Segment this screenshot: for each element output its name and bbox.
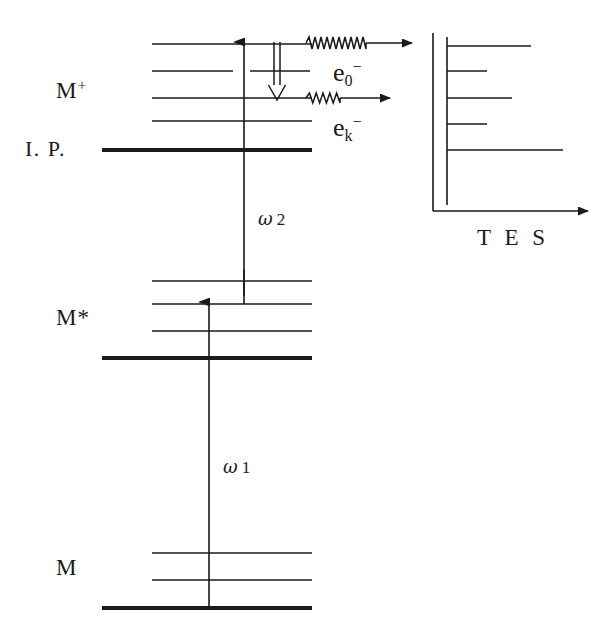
excited-manifold-levels [102, 281, 312, 358]
label-ionization-potential: I. P. [25, 136, 66, 162]
label-electron-k: ek− [333, 113, 362, 145]
tes-spectrum-panel [433, 33, 588, 211]
label-ground-state: M [56, 555, 77, 581]
electron-zero-subscript: 0 [345, 72, 353, 89]
electron-zero-symbol: e [333, 58, 345, 87]
omega1-symbol: ω [223, 456, 238, 477]
electron-k-subscript: k [345, 127, 353, 144]
label-tes-axis: T E S [477, 225, 549, 251]
label-electron-zero: e0− [333, 58, 362, 90]
diagram-canvas [0, 0, 611, 641]
omega2-symbol: ω [258, 208, 273, 229]
label-photon-omega-1: ω1 [223, 456, 250, 478]
ground-manifold-levels [102, 553, 312, 608]
omega1-index: 1 [238, 458, 251, 477]
energy-level-diagram: M+ I. P. M* M e0− ek− ω2 ω1 T E S [0, 0, 611, 641]
omega2-index: 2 [273, 210, 286, 229]
ion-state-charge: + [77, 76, 87, 93]
label-photon-omega-2: ω2 [258, 208, 285, 230]
electron-k-superscript: − [353, 113, 362, 130]
electron-zero-superscript: − [353, 58, 362, 75]
electron-k-symbol: e [333, 113, 345, 142]
label-excited-state: M* [56, 305, 90, 331]
label-ion-state: M+ [56, 76, 87, 104]
escape-wave-ek- [306, 93, 340, 103]
escape-wave-e0- [306, 37, 366, 49]
transition-arrows [209, 42, 286, 608]
ion-state-text: M [56, 78, 77, 103]
